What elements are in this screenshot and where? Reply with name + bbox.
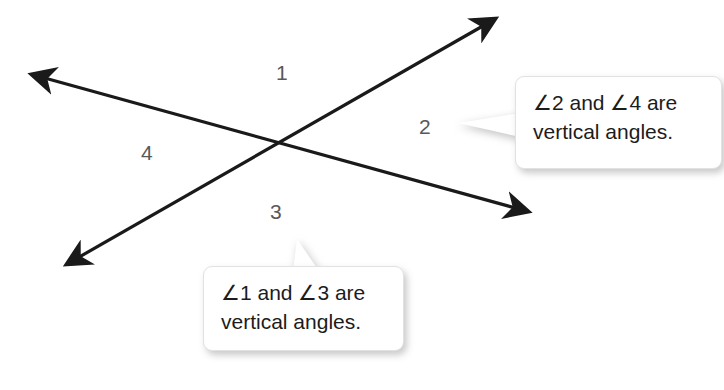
angle-label-3: 3: [270, 201, 282, 222]
callout-tail-right: [458, 113, 520, 137]
callout-vertical-angles-2-4: ∠2 and ∠4 are vertical angles.: [515, 76, 722, 169]
callout-vertical-angles-1-3: ∠1 and ∠3 are vertical angles.: [203, 266, 404, 351]
callout-24-line-1: ∠2 and ∠4 are: [533, 89, 705, 118]
line-lower-left-to-upper-right: [67, 19, 495, 264]
angle-label-4: 4: [141, 142, 153, 163]
callout-13-line-1: ∠1 and ∠3 are: [221, 279, 387, 308]
angle-label-1: 1: [276, 62, 288, 83]
figure-canvas: 1 2 3 4 ∠2 and ∠4 are vertical angles. ∠…: [0, 0, 724, 390]
callout-13-line-2: vertical angles.: [221, 308, 387, 337]
angle-label-2: 2: [419, 116, 431, 137]
callout-24-line-2: vertical angles.: [533, 118, 705, 147]
